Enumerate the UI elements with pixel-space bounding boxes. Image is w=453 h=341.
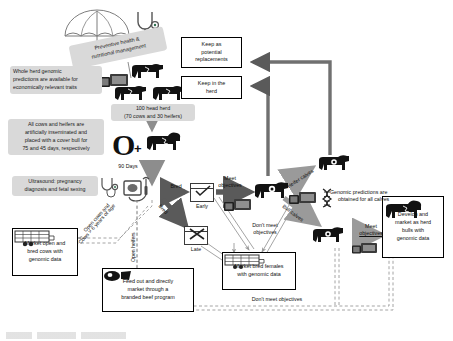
ultrasound-machine-icon [122,176,156,206]
callout-ultrasound-text: Ultrasound: pregnancy diagnosis and feta… [25,178,86,194]
box-develop-market-herd-bulls[interactable]: Develop and market as herd bulls with ge… [382,196,444,258]
calf-icon [316,150,352,175]
box-market-open-bred-cows[interactable]: Market open and bred cows with genomic d… [12,228,78,276]
label-late: Late [183,246,209,253]
computer-monitor-icon [352,242,378,257]
label-dont-meet-objectives-return: Don't meet objectives [222,296,332,303]
cow-icon [252,176,292,204]
box-keep-replacements-text: Keep as potential replacements [195,41,227,64]
figure-caption-partial [6,332,246,339]
callout-breeding-protocol: All cows and heifers are artificially in… [8,119,104,155]
computer-monitor-icon [224,198,252,214]
box-keep-in-herd[interactable]: Keep in the herd [181,76,242,99]
callout-breeding-protocol-text: All cows and heifers are artificially in… [22,121,89,153]
stethoscope-icon [99,176,119,198]
open-cow-zero-icon: O [112,130,135,160]
label-dont-meet-objectives-early: Don't meet objectives [241,222,289,236]
callout-herd-size-text: 100 head herd (70 cows and 30 heifers) [124,105,182,121]
livestock-trailer-icon [13,229,55,247]
bull-icon [144,128,184,156]
arrow-to-keep-herd [253,86,268,176]
box-market-bred-females[interactable]: Market bred females with genomic data [222,252,296,290]
label-genomic-predictions-calves: Genomic predictions are obtained for all… [330,189,428,203]
label-meet-objectives-cow: Meet objectives [209,175,251,189]
box-feed-out-branded-beef[interactable]: Feed out and directly market through a b… [102,268,194,312]
label-open-heifers: Open heifers [130,232,137,262]
callout-ultrasound: Ultrasound: pregnancy diagnosis and feta… [12,176,98,196]
label-meet-objectives-bulls: Meet objectives [351,223,391,237]
label-90-days: 90 Days [111,163,145,170]
callout-whole-herd-genomics-text: Whole herd genomic predictions are avail… [13,68,78,92]
livestock-trailer-icon [223,253,265,270]
figure-canvas: O + [0,0,453,341]
calf-icon [310,222,346,247]
calendar-cross-icon [184,226,208,245]
box-keep-replacements[interactable]: Keep as potential replacements [181,37,242,68]
callout-herd-size: 100 head herd (70 cows and 30 heifers) [111,104,195,121]
label-bred-early: Bred [164,183,188,190]
callout-whole-herd-genomics: Whole herd genomic predictions are avail… [10,66,102,94]
cow-icon [113,80,149,106]
plus-sign: + [134,141,142,156]
label-early: Early [189,203,215,210]
beef-cuts-icon [103,269,133,283]
box-keep-in-herd-text: Keep in the herd [198,80,225,96]
arrow-to-keep-replacements [253,62,330,155]
